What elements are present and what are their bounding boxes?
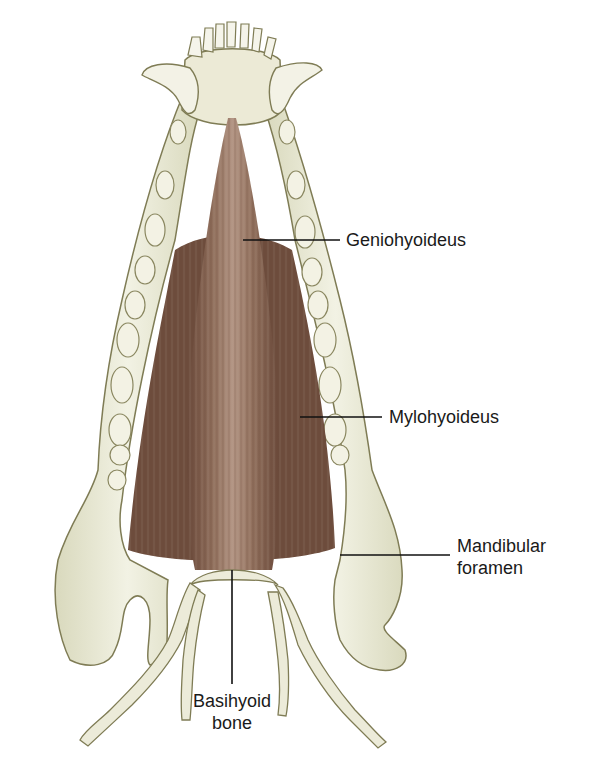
label-basihyoid-line1: Basihyoid [182,690,282,712]
label-mandibular-foramen-line1: Mandibular [457,535,546,557]
label-geniohyoideus: Geniohyoideus [346,229,466,251]
label-basihyoid-bone: Basihyoid bone [182,690,282,734]
mandible-illustration [0,0,589,766]
label-mandibular-foramen-line2: foramen [457,557,546,579]
label-basihyoid-line2: bone [182,712,282,734]
label-mandibular-foramen: Mandibular foramen [457,535,546,579]
label-mylohyoideus: Mylohyoideus [389,406,499,428]
